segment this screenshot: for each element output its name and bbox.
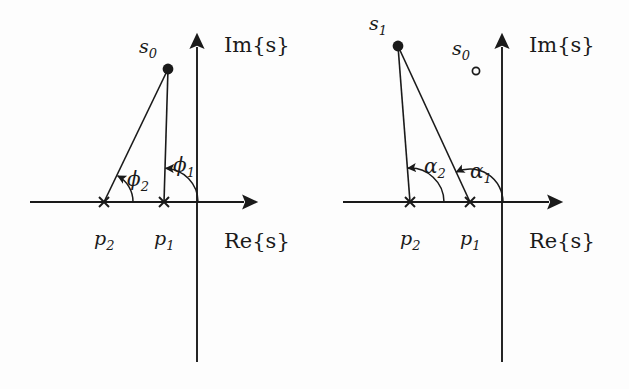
point-marker-s0-left — [163, 64, 174, 75]
label-p1-left: p1 — [154, 227, 174, 253]
axis-label-imag-right: Im{s} — [529, 33, 595, 57]
label-alpha2: α2 — [424, 154, 446, 181]
axis-label-real-right: Re{s} — [529, 229, 595, 253]
label-phi2: ϕ2 — [127, 167, 149, 194]
axis-label-imag-left: Im{s} — [224, 33, 290, 57]
label-s1-right: s1 — [369, 12, 387, 38]
label-s0-right: s0 — [452, 37, 470, 63]
figure-canvas: s0 p1 p2 ϕ1 ϕ2 Im{s} Re{s} — [0, 0, 629, 389]
axis-label-real-left: Re{s} — [224, 229, 290, 253]
label-phi1: ϕ1 — [173, 153, 195, 180]
point-marker-s1-right — [393, 41, 404, 52]
label-s0-left: s0 — [139, 35, 157, 61]
label-p2-right: p2 — [400, 227, 420, 253]
point-marker-s0-right — [472, 67, 479, 74]
complex-plane-diagram: s0 p1 p2 ϕ1 ϕ2 Im{s} Re{s} — [0, 0, 629, 389]
vector-p1-to-s0-left — [164, 69, 168, 202]
label-p2-left: p2 — [94, 227, 114, 253]
panel-right: s1 s0 p1 p2 α1 α2 Im{s} Re{s} — [343, 12, 595, 362]
panel-left: s0 p1 p2 ϕ1 ϕ2 Im{s} Re{s} — [30, 33, 290, 362]
label-alpha1: α1 — [470, 159, 492, 186]
label-p1-right: p1 — [460, 227, 480, 253]
